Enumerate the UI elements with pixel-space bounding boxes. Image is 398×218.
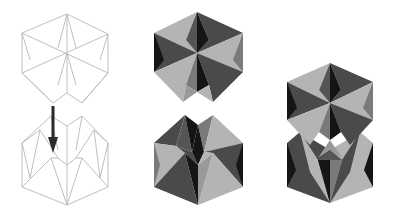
diagram-canvas [0, 0, 398, 218]
wireframe-top-unit [22, 14, 108, 103]
diagram-stage [0, 0, 398, 218]
shaded-top-unit [154, 12, 243, 102]
insert-arrow-icon [48, 106, 58, 153]
wireframe-bottom-unit [22, 116, 108, 205]
assembled-unit [287, 63, 373, 203]
shaded-bottom-unit [154, 115, 243, 205]
